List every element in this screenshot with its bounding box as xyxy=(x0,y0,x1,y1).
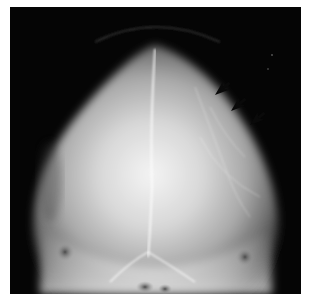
speckle xyxy=(271,54,273,56)
scalp-arc xyxy=(95,27,220,42)
nasal-shadow-right xyxy=(158,284,172,294)
left-orbit xyxy=(56,243,74,261)
radiograph-image xyxy=(10,7,301,294)
skull-xray xyxy=(10,7,301,294)
left-shadow xyxy=(38,142,62,222)
nasal-shadow-left xyxy=(136,281,154,293)
speckle xyxy=(267,68,269,70)
right-orbit xyxy=(236,248,254,266)
arrow-icon xyxy=(247,109,268,129)
